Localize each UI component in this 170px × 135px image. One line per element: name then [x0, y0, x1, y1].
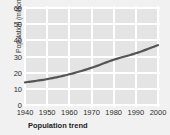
y-tick-label: 30	[14, 52, 22, 61]
x-tick-label: 1970	[83, 108, 100, 117]
population-trend-chart: Population (millions) 0102030405060 1940…	[0, 0, 170, 135]
x-tick-label: 1980	[105, 108, 122, 117]
x-tick-label: 2000	[150, 108, 167, 117]
population-line	[25, 45, 158, 82]
y-tick-label: 10	[14, 84, 22, 93]
y-tick-label: 50	[14, 20, 22, 29]
y-tick-label: 40	[14, 36, 22, 45]
plot-area: 0102030405060 19401950196019701980199020…	[25, 8, 158, 105]
x-tick-label: 1960	[61, 108, 78, 117]
x-tick-label: 1950	[39, 108, 56, 117]
y-tick-label: 20	[14, 68, 22, 77]
line-series	[25, 8, 158, 105]
x-tick-label: 1940	[17, 108, 34, 117]
x-tick-label: 1990	[127, 108, 144, 117]
y-tick-label: 60	[14, 4, 22, 13]
chart-title: Population trend	[28, 121, 88, 130]
